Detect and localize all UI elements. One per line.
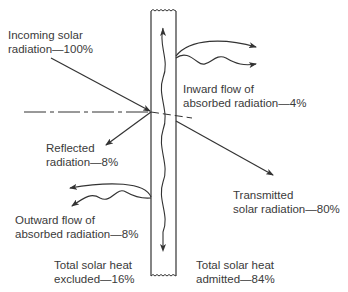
total-excluded-label: Total solar heat excluded—16%	[54, 258, 135, 286]
incoming-ray-arrow	[51, 58, 150, 111]
inward-radiation-wave-arrow	[176, 55, 256, 65]
label-line: Incoming solar	[8, 28, 93, 42]
outward-convection-arrow	[70, 184, 151, 197]
label-line: excluded—16%	[54, 272, 135, 286]
reflected-radiation-label: Reflected radiation—8%	[46, 141, 118, 169]
label-line: Inward flow of	[183, 82, 306, 96]
transmitted-ray-arrow	[176, 121, 273, 175]
transmitted-radiation-label: Transmitted solar radiation—80%	[233, 188, 340, 216]
up-arrow-icon	[160, 28, 166, 36]
label-line: admitted—84%	[196, 272, 275, 286]
label-line: solar radiation—80%	[233, 202, 340, 216]
label-line: Transmitted	[233, 188, 340, 202]
internal-heat-wave	[161, 28, 165, 248]
inward-convection-arrow	[176, 41, 256, 56]
label-line: Reflected	[46, 141, 118, 155]
label-line: radiation—100%	[8, 42, 93, 56]
outward-radiation-wave-arrow	[72, 191, 151, 206]
label-line: Total solar heat	[196, 258, 275, 272]
label-line: Total solar heat	[54, 258, 135, 272]
label-line: absorbed radiation—4%	[183, 96, 306, 110]
inward-flow-label: Inward flow of absorbed radiation—4%	[183, 82, 306, 110]
incoming-radiation-label: Incoming solar radiation—100%	[8, 28, 93, 56]
outward-flow-label: Outward flow of absorbed radiation—8%	[15, 213, 138, 241]
solar-heat-diagram: Incoming solar radiation—100% Inward flo…	[0, 0, 348, 292]
label-line: radiation—8%	[46, 155, 118, 169]
total-admitted-label: Total solar heat admitted—84%	[196, 258, 275, 286]
label-line: Outward flow of	[15, 213, 138, 227]
label-line: absorbed radiation—8%	[15, 227, 138, 241]
